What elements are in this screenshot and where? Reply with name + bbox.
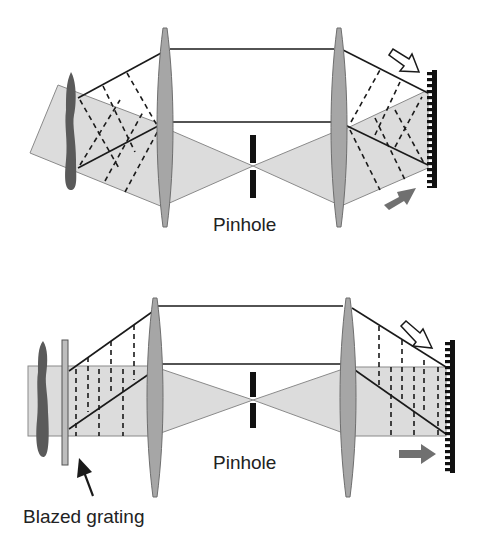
pinhole-upper [250, 135, 256, 163]
top-pinhole-label: Pinhole [213, 214, 276, 236]
grating-backing [432, 70, 437, 188]
grating-teeth [427, 70, 432, 188]
pinhole-lower [250, 170, 256, 198]
grating-backing [450, 340, 455, 473]
lens-1 [157, 28, 173, 227]
pointer-arrow-icon [77, 458, 92, 478]
beam-input [30, 85, 163, 207]
lens-1 [147, 298, 163, 497]
bottom-pinhole-label: Pinhole [213, 452, 276, 474]
hollow-arrow-icon [389, 49, 419, 72]
beam-diverge [253, 130, 339, 205]
beam-converge [165, 128, 253, 205]
pinhole-upper [250, 372, 256, 397]
hollow-arrow-icon [401, 321, 432, 348]
blazed-grating-label: Blazed grating [23, 506, 144, 528]
pinhole-lower [250, 403, 256, 428]
lens-2 [340, 298, 356, 497]
top-diagram [30, 28, 437, 227]
blazed-grating [62, 340, 68, 465]
object-shape [36, 341, 48, 457]
beam-diverge [253, 368, 346, 434]
grating-teeth [445, 340, 450, 473]
filled-arrow-icon [384, 188, 416, 210]
lens-2 [331, 28, 347, 227]
pointer-arrow-shaft [84, 472, 93, 496]
filled-arrow-icon [399, 444, 436, 464]
beam-converge [158, 368, 253, 434]
